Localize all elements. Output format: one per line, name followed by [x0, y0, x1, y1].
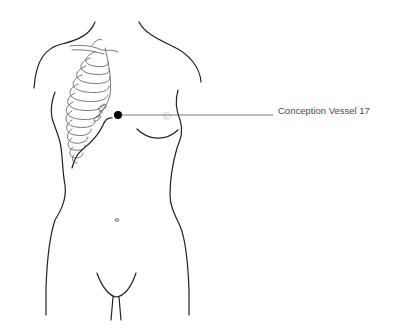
svg-text:c: c [165, 113, 168, 119]
rib-cage [66, 39, 118, 163]
diagram-canvas: c Conception Vessel 17 [0, 0, 405, 332]
acupoint-marker [114, 111, 122, 119]
copyright-mark: c [164, 113, 171, 120]
torso-figure: c [0, 0, 405, 332]
navel [115, 219, 119, 222]
body-outline [34, 22, 201, 320]
acupoint-label: Conception Vessel 17 [278, 105, 370, 117]
